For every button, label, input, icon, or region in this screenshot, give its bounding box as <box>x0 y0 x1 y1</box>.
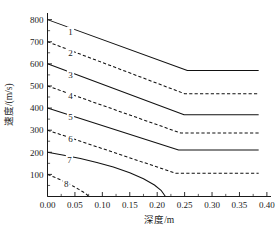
series-curve-2 <box>48 42 259 94</box>
y-tick-label: 200 <box>30 148 44 158</box>
y-tick-label: 300 <box>30 125 44 135</box>
curve-label-4: 4 <box>68 91 73 101</box>
x-tick-label: 0.15 <box>122 200 138 210</box>
velocity-depth-line-chart: 12345678 0.000.050.100.150.200.250.300.3… <box>0 0 279 236</box>
x-tick-label: 0.30 <box>204 200 220 210</box>
x-tick-label: 0.40 <box>259 200 275 210</box>
axis-text-layer: 0.000.050.100.150.200.250.300.350.401002… <box>3 15 275 225</box>
axis-layer <box>48 13 272 197</box>
series-curve-7 <box>48 152 166 196</box>
y-tick-label: 800 <box>30 15 44 25</box>
y-tick-label: 700 <box>30 37 44 47</box>
y-tick-label: 500 <box>30 81 44 91</box>
x-tick-label: 0.25 <box>177 200 193 210</box>
y-tick-label: 600 <box>30 59 44 69</box>
series-curve-3 <box>48 64 259 115</box>
chart-figure: 12345678 0.000.050.100.150.200.250.300.3… <box>0 0 279 236</box>
series-curve-1 <box>48 20 259 71</box>
series-curve-6 <box>48 130 259 173</box>
curve-label-8: 8 <box>64 179 69 189</box>
x-tick-label: 0.10 <box>94 200 110 210</box>
y-tick-label: 400 <box>30 103 44 113</box>
series-layer <box>48 20 259 197</box>
curve-label-6: 6 <box>68 134 73 144</box>
x-tick-label: 0.05 <box>67 200 83 210</box>
x-tick-label: 0.00 <box>40 200 56 210</box>
series-curve-4 <box>48 86 259 133</box>
x-tick-label: 0.20 <box>149 200 165 210</box>
x-tick-label: 0.35 <box>232 200 248 210</box>
curve-label-5: 5 <box>68 112 73 122</box>
curve-label-2: 2 <box>68 48 73 58</box>
curve-label-1: 1 <box>68 27 73 37</box>
y-tick-label: 100 <box>30 170 44 180</box>
curve-label-7: 7 <box>67 155 72 165</box>
x-axis-title: 深度/m <box>144 214 175 225</box>
curve-label-3: 3 <box>68 70 73 80</box>
y-axis-title: 速度/(m/s) <box>3 83 15 126</box>
curve-label-layer: 12345678 <box>63 27 75 189</box>
